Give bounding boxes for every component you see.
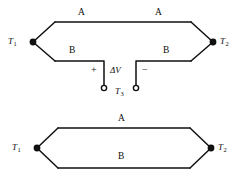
label-wire-a-top-left: A <box>78 8 85 18</box>
label-reference-t3-subscript: 3 <box>121 90 124 97</box>
label-junction-t1-top: T1 <box>8 37 16 46</box>
label-junction-t1-top-letter: T <box>8 36 13 46</box>
label-junction-t2-top: T2 <box>220 37 228 46</box>
top-left-lower-lead <box>33 42 55 61</box>
junction-node-t2-bottom <box>208 145 215 152</box>
label-delta-v: ΔV <box>110 66 121 75</box>
label-wire-a-bottom: A <box>118 114 125 124</box>
label-terminal-minus: − <box>142 65 148 75</box>
label-reference-t3: T3 <box>115 87 123 96</box>
label-junction-t2-top-letter: T <box>220 36 225 46</box>
bottom-right-upper-lead <box>190 128 211 148</box>
terminal-positive <box>101 85 106 90</box>
label-wire-b-bottom: B <box>118 152 124 162</box>
label-junction-t1-top-subscript: 1 <box>14 40 17 47</box>
label-junction-t1-bottom-letter: T <box>12 142 17 152</box>
label-wire-b-top-left: B <box>69 46 75 56</box>
terminal-negative <box>133 85 138 90</box>
bottom-right-lower-lead <box>190 148 211 168</box>
label-junction-t2-bottom: T2 <box>218 143 226 152</box>
junction-node-t1-top <box>30 39 37 46</box>
label-wire-a-top-right: A <box>155 8 162 18</box>
top-right-upper-lead <box>191 22 213 42</box>
label-wire-b-top-right: B <box>163 46 169 56</box>
bottom-left-upper-lead <box>37 128 58 148</box>
bottom-left-lower-lead <box>37 148 58 168</box>
top-left-upper-lead <box>33 22 55 42</box>
thermocouple-figure: A A B B T1 T2 + − ΔV T3 A B T1 T2 <box>0 0 245 187</box>
junction-node-t1-bottom <box>34 145 41 152</box>
label-junction-t1-bottom-subscript: 1 <box>18 146 21 153</box>
label-junction-t2-bottom-letter: T <box>218 142 223 152</box>
top-right-lower-lead <box>191 42 213 61</box>
label-junction-t1-bottom: T1 <box>12 143 20 152</box>
label-junction-t2-top-subscript: 2 <box>226 40 229 47</box>
label-junction-t2-bottom-subscript: 2 <box>224 146 227 153</box>
label-terminal-plus: + <box>91 65 97 75</box>
label-reference-t3-letter: T <box>115 86 120 96</box>
junction-node-t2-top <box>210 39 217 46</box>
